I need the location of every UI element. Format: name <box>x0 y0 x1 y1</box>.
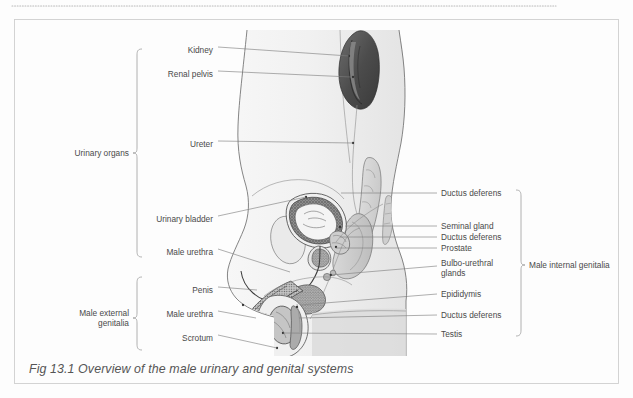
label-epididymis: Epididymis <box>441 289 481 299</box>
anatomy-illustration <box>227 30 406 358</box>
label-bulbo-urethral-line1: Bulbo-urethral <box>441 258 493 268</box>
label-male-urethra-lower: Male urethra <box>166 309 213 319</box>
leader-dot-ductus-1 <box>339 226 341 228</box>
bracket-male-external-genitalia <box>133 277 142 350</box>
right-label-group: Ductus deferens Seminal gland Ductus def… <box>441 188 501 339</box>
leader-dot-renal-pelvis <box>352 76 354 78</box>
leader-dot-penis <box>242 304 244 306</box>
label-bulbo-urethral-line2: glands <box>441 268 465 278</box>
label-scrotum: Scrotum <box>182 333 213 343</box>
label-male-urethra-upper: Male urethra <box>166 247 213 257</box>
label-penis: Penis <box>192 285 213 295</box>
group-label-male-external-line2: genitalia <box>98 318 129 328</box>
figure-caption: Fig 13.1 Overview of the male urinary an… <box>29 362 354 376</box>
label-ductus-deferens-1: Ductus deferens <box>441 188 501 198</box>
label-renal-pelvis: Renal pelvis <box>168 69 213 79</box>
document-page: Kidney Renal pelvis Ureter Urinary bladd… <box>0 0 633 398</box>
label-urinary-bladder: Urinary bladder <box>156 214 213 224</box>
group-label-urinary-organs: Urinary organs <box>75 148 129 158</box>
label-kidney: Kidney <box>188 45 214 55</box>
bracket-male-internal-genitalia <box>516 190 525 336</box>
label-prostate: Prostate <box>441 243 472 253</box>
glans-penis <box>230 339 244 355</box>
label-ductus-deferens-2: Ductus deferens <box>441 232 501 242</box>
leader-dot-epididymis <box>296 306 298 308</box>
label-testis: Testis <box>441 329 462 339</box>
left-label-group: Kidney Renal pelvis Ureter Urinary bladd… <box>156 45 214 343</box>
prostate-tissue <box>312 249 329 267</box>
label-seminal-gland: Seminal gland <box>441 221 494 231</box>
figure-illustration: Kidney Renal pelvis Ureter Urinary bladd… <box>0 0 633 398</box>
group-label-male-internal-genitalia: Male internal genitalia <box>529 260 610 270</box>
bracket-urinary-organs <box>133 49 142 257</box>
group-label-male-external-line1: Male external <box>79 308 129 318</box>
label-ductus-deferens-3: Ductus deferens <box>441 310 501 320</box>
label-ureter: Ureter <box>190 139 213 149</box>
